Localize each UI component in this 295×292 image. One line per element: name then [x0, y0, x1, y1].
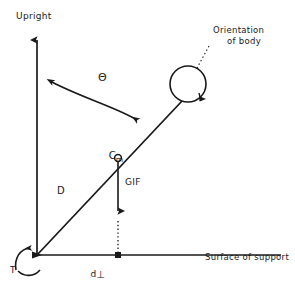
surface-of-support-label: Surface of support	[205, 253, 289, 262]
theta-label: Θ	[98, 72, 107, 84]
torque-arc-tail	[18, 270, 40, 275]
d-perp-foot-tick	[115, 252, 121, 258]
cm-subscript: m	[116, 155, 123, 164]
orientation-label-line1: Orientation	[213, 26, 264, 35]
torque-label: T	[10, 266, 16, 276]
posture-biomechanics-diagram: Upright Orientation of body Θ Cm GIF D d…	[0, 0, 295, 292]
body-segment-line	[37, 101, 182, 255]
torque-arc	[16, 248, 30, 270]
theta-angle-arc	[52, 82, 137, 120]
gif-label: GIF	[125, 178, 141, 188]
orientation-leader-dotted-line	[196, 46, 209, 70]
orientation-label-line2: of body	[227, 37, 261, 46]
d-perpendicular-label: d⊥	[79, 258, 105, 290]
perpendicular-icon: ⊥	[96, 269, 105, 280]
cm-symbol: C	[109, 150, 116, 161]
upright-axis-label: Upright	[16, 12, 52, 22]
center-of-mass-label: Cm	[96, 139, 123, 175]
distance-d-label: D	[57, 185, 65, 196]
head-orientation-tick-stem	[199, 93, 201, 101]
